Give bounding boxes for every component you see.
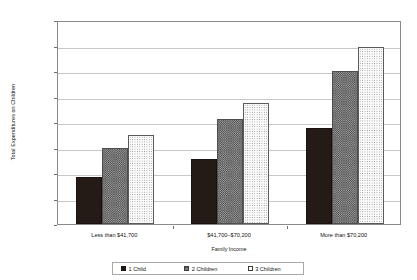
y-axis-tick-mark (54, 225, 57, 226)
legend-swatch-icon (248, 266, 253, 271)
legend: 1 Child2 Children3 Children (112, 262, 304, 275)
x-axis-title: Family Income (57, 246, 401, 252)
bar-chart: Total Expenditures on Children $0$5,000$… (0, 0, 417, 280)
plot-area (57, 21, 401, 225)
x-axis-tick-mark (173, 226, 174, 229)
legend-label: 2 Children (192, 266, 218, 272)
bar (358, 47, 384, 224)
bar (217, 119, 243, 224)
bar (102, 148, 128, 225)
x-axis-tick-mark (287, 226, 288, 229)
bar-group (306, 22, 384, 224)
y-axis-title: Total Expenditures on Children (10, 47, 16, 197)
x-axis-category-label: More than $70,200 (286, 232, 401, 238)
bar (191, 159, 217, 224)
x-axis-category-label: $41,700–$70,200 (172, 232, 287, 238)
bar-group (191, 22, 269, 224)
bar (243, 103, 269, 224)
legend-swatch-icon (184, 266, 189, 271)
bar-group (76, 22, 154, 224)
legend-item: 3 Children (240, 266, 303, 272)
bar (76, 177, 102, 224)
bar (128, 135, 154, 224)
legend-label: 3 Children (255, 266, 281, 272)
x-axis-category-label: Less than $41,700 (57, 232, 172, 238)
bar (306, 128, 332, 224)
legend-label: 1 Child (129, 266, 146, 272)
legend-swatch-icon (121, 266, 126, 271)
legend-item: 2 Children (176, 266, 239, 272)
bar (332, 71, 358, 224)
legend-item: 1 Child (113, 266, 176, 272)
